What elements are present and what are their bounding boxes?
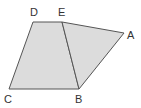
label-a: A: [127, 29, 135, 41]
label-e: E: [58, 6, 65, 18]
label-d: D: [30, 6, 38, 18]
label-b: B: [75, 93, 82, 105]
label-c: C: [4, 93, 12, 105]
geometry-figure: D E A B C: [0, 0, 141, 108]
